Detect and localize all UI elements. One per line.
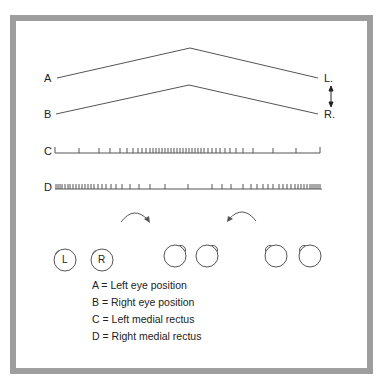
trace-a-label: A	[44, 73, 51, 84]
trace-b-line	[56, 85, 318, 114]
legend: A = Left eye position B = Right eye posi…	[92, 278, 201, 346]
right-eye-label: R	[98, 255, 105, 265]
legend-item-a: A = Left eye position	[92, 278, 201, 295]
eye-icon	[265, 245, 287, 267]
double-arrow-icon	[329, 86, 333, 107]
trace-a-line	[57, 48, 318, 78]
trace-d-label: D	[44, 182, 52, 193]
eye-icon	[164, 245, 186, 267]
legend-item-b: B = Right eye position	[92, 295, 201, 312]
left-eye-label: L	[62, 255, 68, 265]
rotate-counterclockwise-arrow-icon	[227, 212, 256, 222]
eye-icon	[196, 245, 218, 267]
eye-icon	[299, 245, 321, 267]
trace-b-label: B	[44, 109, 51, 120]
trace-c-spikes	[55, 147, 320, 153]
legend-item-d: D = Right medial rectus	[92, 329, 201, 346]
legend-item-c: C = Left medial rectus	[92, 312, 201, 329]
trace-b-end-label: R.	[324, 109, 335, 120]
trace-c-label: C	[44, 146, 52, 157]
rotate-clockwise-arrow-icon	[121, 213, 150, 223]
trace-a-end-label: L.	[324, 73, 333, 84]
trace-d-spikes	[55, 184, 322, 189]
